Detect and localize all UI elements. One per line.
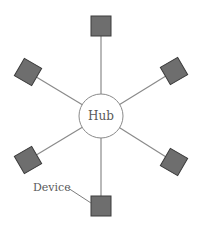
device-node-lower-right: [160, 148, 187, 175]
device-label: Device: [33, 181, 71, 194]
device-node-top: [91, 16, 111, 36]
device-node-upper-left: [14, 58, 41, 85]
device-node-upper-right: [160, 57, 187, 84]
star-topology-diagram: Hub Device: [0, 0, 200, 225]
device-label-leader-line: [68, 188, 91, 203]
hub-label: Hub: [88, 109, 114, 123]
device-node-bottom: [91, 196, 111, 216]
device-node-lower-left: [14, 146, 41, 173]
